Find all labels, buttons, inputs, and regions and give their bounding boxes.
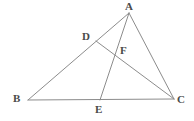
vertex-label-D: D [82, 31, 90, 42]
segment-DC [96, 41, 174, 99]
vertex-label-A: A [125, 1, 133, 12]
segment-AC [129, 13, 174, 99]
segment-BC [28, 99, 174, 100]
geometry-diagram: A B C D E F [0, 0, 194, 121]
vertex-label-C: C [177, 94, 185, 105]
vertex-label-E: E [95, 104, 102, 115]
segment-BA [28, 13, 129, 100]
vertex-label-B: B [13, 93, 20, 104]
segment-group [28, 13, 174, 100]
vertex-label-F: F [120, 45, 127, 56]
